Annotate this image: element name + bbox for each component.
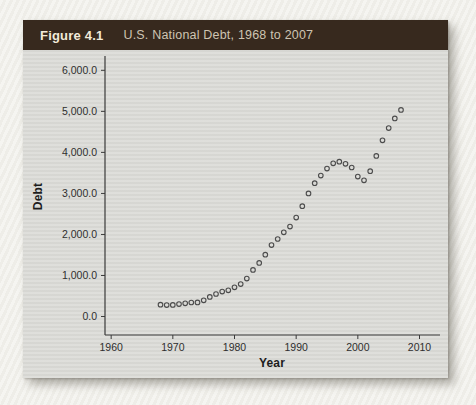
data-point	[393, 116, 398, 121]
data-point	[288, 224, 293, 229]
data-point	[300, 204, 305, 209]
figure-title: U.S. National Debt, 1968 to 2007	[123, 28, 313, 42]
data-point	[282, 230, 287, 235]
data-point	[399, 108, 404, 113]
scanned-page: Figure 4.1 U.S. National Debt, 1968 to 2…	[0, 0, 476, 405]
data-point	[214, 292, 219, 297]
data-point	[356, 174, 361, 179]
data-point	[349, 165, 354, 170]
x-tick-label: 1990	[284, 341, 308, 353]
y-tick-label: 4,000.0	[62, 146, 97, 158]
data-point	[189, 300, 194, 305]
data-point	[362, 178, 367, 183]
data-point	[294, 215, 299, 220]
y-tick-label: 6,000.0	[62, 64, 97, 76]
x-tick-label: 2010	[408, 341, 432, 353]
data-point	[374, 154, 379, 159]
x-tick-label: 2000	[346, 341, 370, 353]
data-point	[171, 303, 176, 308]
chart-area: 0.01,000.02,000.03,000.04,000.05,000.06,…	[23, 50, 448, 378]
data-point	[325, 166, 330, 171]
data-point	[158, 302, 163, 307]
data-point	[275, 237, 280, 242]
data-point	[380, 138, 385, 143]
y-tick-label: 0.0	[82, 310, 97, 322]
data-point	[177, 302, 182, 307]
data-point	[220, 289, 225, 294]
figure-label: Figure 4.1	[40, 28, 103, 43]
x-tick-label: 1960	[99, 341, 123, 353]
data-point	[306, 191, 311, 196]
data-point	[368, 169, 373, 174]
x-tick-label: 1970	[161, 341, 185, 353]
data-point	[331, 161, 336, 166]
data-point	[238, 282, 243, 287]
data-point	[269, 243, 274, 248]
data-point	[319, 173, 324, 178]
y-tick-label: 5,000.0	[62, 105, 97, 117]
x-tick-label: 1980	[223, 341, 247, 353]
data-point	[232, 285, 237, 290]
data-point	[226, 288, 231, 293]
data-point	[263, 252, 268, 257]
figure-title-bar: Figure 4.1 U.S. National Debt, 1968 to 2…	[23, 20, 448, 50]
data-point	[201, 298, 206, 303]
data-point	[245, 276, 250, 281]
data-point	[208, 295, 213, 300]
data-point	[312, 181, 317, 186]
scatter-plot: 0.01,000.02,000.03,000.04,000.05,000.06,…	[23, 50, 448, 378]
figure-panel: Figure 4.1 U.S. National Debt, 1968 to 2…	[23, 20, 448, 378]
data-point	[183, 301, 188, 306]
y-tick-label: 3,000.0	[62, 187, 97, 199]
data-point	[343, 162, 348, 167]
data-point	[251, 268, 256, 273]
data-point	[337, 159, 342, 164]
data-point	[386, 126, 391, 131]
data-point	[195, 300, 200, 305]
data-point	[164, 303, 169, 308]
y-tick-label: 2,000.0	[62, 228, 97, 240]
x-axis-title: Year	[241, 356, 303, 370]
data-point	[257, 261, 262, 266]
y-tick-label: 1,000.0	[62, 269, 97, 281]
y-axis-title: Debt	[31, 176, 46, 218]
